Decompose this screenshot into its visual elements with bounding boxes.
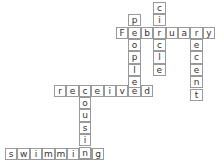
crossword-cell[interactable]: c — [153, 2, 165, 14]
crossword-cell[interactable]: i — [79, 134, 91, 146]
crossword-cell[interactable]: l — [153, 51, 165, 63]
crossword-cell[interactable]: a — [178, 27, 190, 39]
crossword-cell[interactable]: d — [141, 85, 153, 97]
crossword-cell[interactable]: p — [128, 51, 140, 63]
crossword-cell[interactable]: t — [190, 89, 202, 101]
crossword-cell[interactable]: n — [190, 76, 202, 88]
crossword-cell[interactable]: w — [17, 148, 29, 160]
crossword-cell[interactable]: c — [190, 51, 202, 63]
crossword-cell[interactable]: s — [5, 148, 17, 160]
crossword-cell[interactable]: r — [190, 27, 202, 39]
crossword-cell[interactable]: u — [79, 109, 91, 121]
crossword-cell[interactable]: F — [116, 27, 128, 39]
crossword-cell[interactable]: e — [153, 64, 165, 76]
crossword-cell[interactable]: g — [92, 148, 104, 160]
crossword-cell[interactable]: u — [166, 27, 178, 39]
crossword-cell[interactable]: c — [79, 85, 91, 97]
crossword-cell[interactable]: o — [79, 97, 91, 109]
crossword-cell[interactable]: i — [30, 148, 42, 160]
crossword-cell[interactable]: m — [42, 148, 54, 160]
crossword-cell[interactable]: s — [79, 122, 91, 134]
crossword-cell[interactable]: n — [79, 147, 91, 159]
crossword-cell[interactable]: i — [67, 148, 79, 160]
crossword-cell[interactable]: e — [190, 39, 202, 51]
crossword-cell[interactable]: m — [55, 148, 67, 160]
crossword-cell[interactable]: y — [203, 27, 215, 39]
crossword-cell[interactable]: r — [153, 27, 165, 39]
crossword-cell[interactable]: e — [128, 27, 140, 39]
crossword-cell[interactable]: e — [91, 85, 103, 97]
crossword-cell[interactable]: e — [66, 85, 78, 97]
crossword-cell[interactable]: l — [128, 64, 140, 76]
crossword-cell[interactable]: v — [116, 85, 128, 97]
crossword-grid: Februaryreceivedswimmingciclepopleecento… — [0, 0, 224, 168]
crossword-cell[interactable]: e — [128, 76, 140, 88]
crossword-cell[interactable]: c — [153, 39, 165, 51]
crossword-cell[interactable]: o — [128, 39, 140, 51]
crossword-cell[interactable]: b — [141, 27, 153, 39]
crossword-cell[interactable]: e — [190, 64, 202, 76]
crossword-cell[interactable]: p — [128, 14, 140, 26]
crossword-cell[interactable]: i — [104, 85, 116, 97]
crossword-cell[interactable]: r — [54, 85, 66, 97]
crossword-cell[interactable]: i — [153, 14, 165, 26]
